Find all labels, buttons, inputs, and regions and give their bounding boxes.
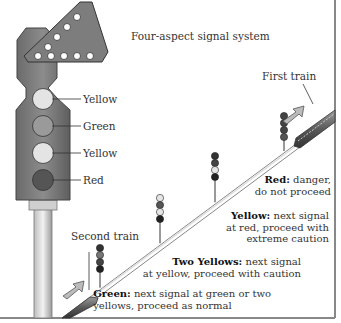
aspect-red: Red: danger, do not proceed bbox=[255, 174, 331, 197]
aspect-yellow-line3: extreme caution bbox=[246, 233, 329, 244]
main-lamp-red bbox=[33, 170, 54, 191]
signal-yellow-lamp bbox=[211, 159, 218, 166]
diagram-title: Four-aspect signal system bbox=[131, 30, 270, 42]
aspect-yellow-line2: at red, proceed with bbox=[226, 222, 329, 233]
aspect-two-yellows-line1: next signal bbox=[245, 256, 301, 267]
signal-red-lamp bbox=[280, 126, 287, 133]
pole-collar bbox=[29, 200, 57, 210]
diagram: Four-aspect signal system Yellow Green Y… bbox=[0, 0, 341, 323]
second-train-arrow bbox=[63, 281, 84, 299]
signal-two-yellows-lamp bbox=[156, 215, 163, 222]
aspect-red-name: Red: bbox=[264, 174, 289, 185]
signal-red-lamp bbox=[280, 133, 287, 140]
signal-two-yellows-lamp bbox=[156, 194, 163, 201]
signal-two-yellows-lamp bbox=[156, 201, 163, 208]
lamp-label-yellow-bottom: Yellow bbox=[83, 147, 117, 159]
second-train-label: Second train bbox=[71, 230, 139, 242]
aspect-green: Green: next signal at green or two yello… bbox=[93, 288, 271, 311]
signal-green-lamp bbox=[96, 258, 103, 265]
aspect-two-yellows-line2: at yellow, proceed with caution bbox=[143, 268, 301, 279]
main-lamp-green bbox=[33, 116, 54, 137]
signal-yellow-lamp bbox=[211, 166, 218, 173]
main-lamp-yellow bbox=[33, 143, 54, 164]
aspect-red-line2: do not proceed bbox=[255, 186, 331, 197]
aspect-green-line1: next signal at green or two bbox=[134, 288, 271, 299]
first-train-pointer bbox=[303, 84, 313, 104]
aspect-green-name: Green: bbox=[93, 288, 131, 299]
aspect-red-line1: danger, bbox=[293, 174, 331, 185]
main-lamp-yellow bbox=[33, 89, 54, 110]
aspect-green-line2: yellows, proceed as normal bbox=[93, 300, 231, 311]
signal-green-lamp bbox=[96, 265, 103, 272]
aspect-two-yellows-name: Two Yellows: bbox=[172, 256, 242, 267]
signal-yellow-lamp bbox=[211, 152, 218, 159]
signal-green-lamp bbox=[96, 244, 103, 251]
aspect-yellow-name: Yellow: bbox=[231, 210, 270, 221]
signal-yellow-lamp bbox=[211, 173, 218, 180]
aspect-yellow: Yellow: next signal at red, proceed with… bbox=[226, 210, 329, 245]
lamp-label-red: Red bbox=[83, 174, 104, 186]
signal-two-yellows-lamp bbox=[156, 208, 163, 215]
lamp-label-green: Green bbox=[83, 120, 116, 132]
signal-pole bbox=[34, 208, 52, 318]
aspect-two-yellows: Two Yellows: next signal at yellow, proc… bbox=[143, 256, 301, 279]
signal-green-lamp bbox=[96, 251, 103, 258]
first-train-label: First train bbox=[262, 70, 316, 82]
lamp-label-yellow-top: Yellow bbox=[83, 93, 117, 105]
aspect-yellow-line1: next signal bbox=[273, 210, 329, 221]
